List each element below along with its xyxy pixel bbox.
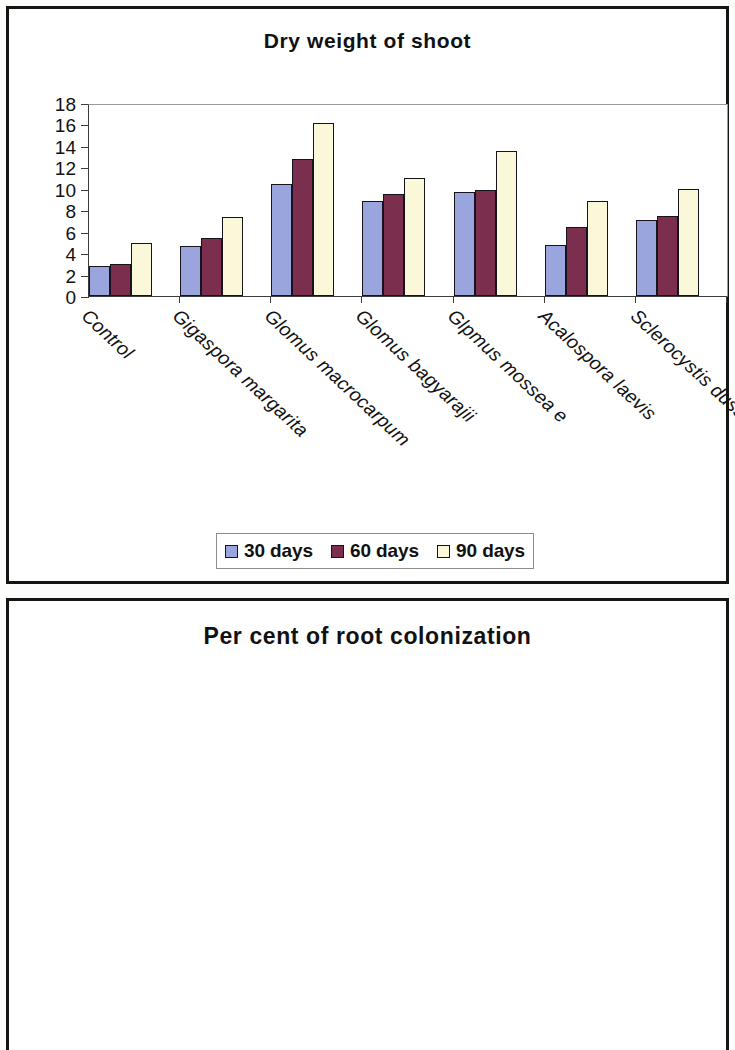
x-axis-labels-dry-weight: ControlGigaspora margaritaGlomus macroca… (88, 305, 728, 505)
legend-label: 60 days (350, 540, 419, 562)
bar-group (636, 105, 727, 296)
y-tick-label: 4 (65, 245, 76, 264)
bar-60-days (201, 238, 222, 296)
bar-30-days (271, 184, 292, 296)
bar-90-days (496, 151, 517, 296)
y-tick-label: 16 (55, 116, 76, 135)
bar-group (545, 105, 636, 296)
bar-90-days (131, 243, 152, 296)
bar-60-days (383, 194, 404, 296)
legend-swatch-90-days (437, 545, 450, 558)
chart-panel-root-colonization: Per cent of root colonization 0204060801… (6, 598, 729, 1050)
bar-group (89, 105, 180, 296)
bar-30-days (636, 220, 657, 296)
legend-item: 60 days (331, 540, 419, 562)
x-tick-mark (726, 296, 727, 303)
bar-group (271, 105, 362, 296)
legend-label: 30 days (244, 540, 313, 562)
bar-90-days (404, 178, 425, 296)
y-axis-dry-weight: 024681012141618 (22, 104, 88, 297)
x-axis-label: Control (77, 305, 138, 364)
y-tick-label: 6 (65, 223, 76, 242)
bar-group (362, 105, 453, 296)
y-tick-label: 2 (65, 266, 76, 285)
bar-group (180, 105, 271, 296)
figure-page: Dry weight of shoot 024681012141618 Cont… (0, 0, 735, 1050)
y-tick-label: 0 (65, 288, 76, 307)
legend-label: 90 days (456, 540, 525, 562)
x-tick-mark (635, 296, 636, 303)
bar-60-days (110, 264, 131, 296)
bar-30-days (362, 201, 383, 297)
legend-dry-weight: 30 days60 days90 days (216, 533, 534, 569)
bar-30-days (545, 245, 566, 296)
bar-90-days (222, 217, 243, 296)
plot-area-dry-weight (88, 104, 728, 297)
bar-30-days (180, 246, 201, 296)
bar-groups-dry-weight (89, 105, 727, 296)
y-tick-label: 14 (55, 137, 76, 156)
y-tick-label: 18 (55, 95, 76, 114)
x-tick-mark (270, 296, 271, 303)
bar-90-days (678, 189, 699, 296)
x-tick-mark (361, 296, 362, 303)
chart-panel-dry-weight: Dry weight of shoot 024681012141618 Cont… (6, 6, 729, 584)
y-tick-mark (81, 297, 89, 298)
bar-60-days (657, 216, 678, 296)
bar-60-days (566, 227, 587, 296)
bar-60-days (475, 190, 496, 296)
chart-title-dry-weight: Dry weight of shoot (9, 29, 726, 53)
y-tick-label: 12 (55, 159, 76, 178)
legend-swatch-60-days (331, 545, 344, 558)
bar-60-days (292, 159, 313, 296)
bar-90-days (313, 123, 334, 296)
bar-90-days (587, 201, 608, 297)
bar-30-days (89, 266, 110, 296)
bar-group (454, 105, 545, 296)
bar-30-days (454, 192, 475, 296)
x-tick-mark (544, 296, 545, 303)
chart-title-root-colonization: Per cent of root colonization (9, 623, 726, 650)
legend-swatch-30-days (225, 545, 238, 558)
y-tick-label: 10 (55, 180, 76, 199)
legend-item: 30 days (225, 540, 313, 562)
legend-item: 90 days (437, 540, 525, 562)
x-tick-mark (453, 296, 454, 303)
y-tick-label: 8 (65, 202, 76, 221)
x-tick-mark (179, 296, 180, 303)
